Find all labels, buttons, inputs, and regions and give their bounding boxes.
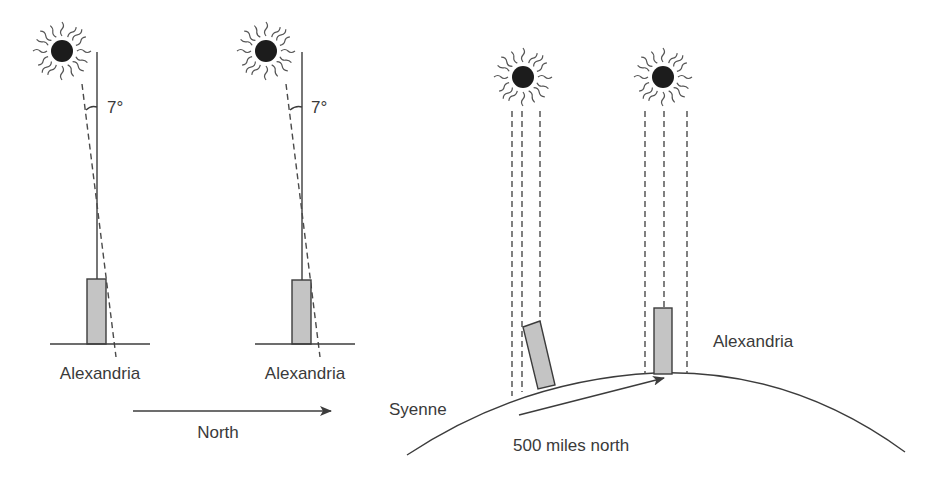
obelisk-tilted <box>523 321 555 389</box>
distance-label: 500 miles north <box>513 436 629 455</box>
right-panel: Syenne 500 miles north Alexandria <box>389 48 905 455</box>
obelisk <box>87 279 106 344</box>
obelisk <box>292 280 311 344</box>
north-direction-arrow: North <box>133 411 331 442</box>
sun-icon <box>494 48 552 106</box>
sun-icon <box>237 22 295 80</box>
sun-icon <box>33 22 91 80</box>
angle-label: 7° <box>107 98 123 117</box>
left-panel-2: 7° Alexandria <box>237 22 355 383</box>
direction-label: North <box>197 423 239 442</box>
syenne-label: Syenne <box>389 400 447 419</box>
sun-icon <box>634 48 692 106</box>
obelisk <box>654 308 672 374</box>
alexandria-label: Alexandria <box>713 332 794 351</box>
city-label: Alexandria <box>265 364 346 383</box>
angle-arc <box>86 106 97 110</box>
eratosthenes-diagram: 7° Alexandria 7° Alexandria North <box>0 0 935 483</box>
angle-label: 7° <box>311 98 327 117</box>
angle-arc <box>290 106 302 110</box>
city-label: Alexandria <box>60 364 141 383</box>
left-panel-1: 7° Alexandria <box>33 22 150 383</box>
earth-surface-arc <box>407 373 905 455</box>
